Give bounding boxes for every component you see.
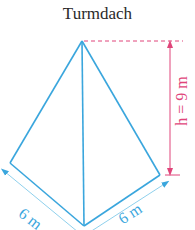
- height-label: h = 9 m: [173, 71, 191, 131]
- pyramid-diagram: [0, 0, 195, 230]
- edge-apex-front: [82, 41, 84, 226]
- height-dimension: [84, 41, 183, 175]
- edge-apex-right: [82, 41, 160, 175]
- pyramid-edges: [10, 41, 160, 226]
- edge-apex-left: [10, 41, 82, 163]
